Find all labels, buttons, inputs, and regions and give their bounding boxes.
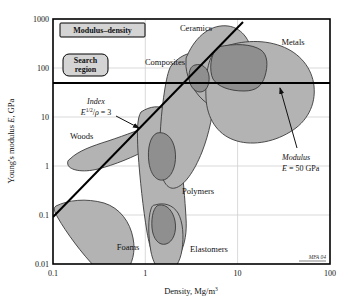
label-foams: Foams: [117, 242, 140, 252]
y-tick-5: 1000: [33, 15, 49, 24]
y-tick-3: 10: [41, 113, 49, 122]
search-region-box[interactable]: Search region: [63, 54, 108, 76]
y-tick-1: 0.1: [39, 211, 49, 220]
overlap-woods-polymers: [148, 133, 175, 180]
search-region-label-line1: Search: [74, 56, 98, 65]
x-axis-title: Density, Mg/m3: [164, 286, 218, 296]
modulus-annotation-line2: E = 50 GPa: [281, 164, 320, 173]
label-metals: Metals: [281, 37, 304, 47]
y-tick-4: 100: [37, 64, 49, 73]
index-annotation-line2: E1/2/ρ = 3: [80, 107, 112, 117]
overlap-composites-ceramics: [189, 65, 209, 92]
chart-canvas: 0.1 1 10 100 0.01 0.1 1 10 100 1000 Dens…: [0, 0, 349, 307]
search-region-label-line2: region: [75, 65, 97, 74]
label-ceramics: Ceramics: [180, 23, 212, 33]
y-tick-labels: 0.01 0.1 1 10 100 1000: [33, 15, 49, 269]
title-box: Modulus–density: [60, 23, 145, 37]
x-tick-0: 0.1: [48, 269, 58, 278]
x-tick-2: 10: [234, 269, 242, 278]
signature-label: MFA 04: [308, 254, 327, 260]
overlap-ceramics-metals: [211, 45, 267, 91]
ashby-modulus-density-chart: 0.1 1 10 100 0.01 0.1 1 10 100 1000 Dens…: [0, 0, 349, 307]
label-polymers: Polymers: [182, 186, 214, 196]
label-woods: Woods: [70, 131, 93, 141]
x-axis-title-text: Density, Mg/m: [164, 286, 215, 296]
x-tick-3: 100: [324, 269, 336, 278]
label-composites: Composites: [145, 57, 185, 67]
modulus-annotation-line1: Modulus: [281, 153, 310, 162]
x-tick-1: 1: [143, 269, 147, 278]
y-tick-2: 1: [45, 162, 49, 171]
x-tick-labels: 0.1 1 10 100: [48, 269, 336, 278]
title-box-label: Modulus–density: [73, 26, 132, 35]
label-elastomers: Elastomers: [190, 244, 228, 254]
index-annotation-line1: Index: [86, 97, 105, 106]
y-axis-title: Young's modulus E, GPa: [6, 98, 16, 183]
y-tick-0: 0.01: [35, 260, 49, 269]
